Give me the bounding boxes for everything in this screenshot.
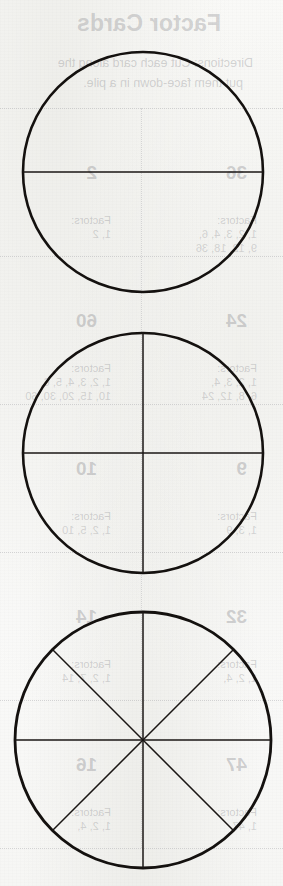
fraction-circle-figures: [0, 0, 283, 886]
circle-quarters: [23, 333, 263, 573]
sector-divider-line: [143, 649, 234, 740]
sector-divider-line: [52, 740, 143, 831]
fraction-circles-svg: [0, 0, 283, 886]
circle-halves: [23, 52, 263, 292]
sector-divider-line: [52, 649, 143, 740]
worksheet-page: Factor Cards Directions: Cut each card a…: [0, 0, 283, 886]
circle-eighths: [15, 612, 271, 868]
sector-divider-line: [143, 740, 234, 831]
